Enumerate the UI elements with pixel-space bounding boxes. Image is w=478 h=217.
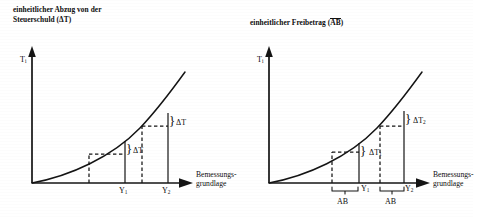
chart-panel-left: einheitlicher Abzug von der Steuerschuld… [0, 0, 236, 217]
delta-label-upper-left: ΔT [176, 118, 186, 127]
x-tick-label-y1-left: Y1 [119, 186, 127, 195]
brace-lower-left: } [126, 144, 132, 153]
delta-label-lower-right: ΔT1 [369, 148, 382, 157]
brace-upper-left: } [169, 116, 175, 125]
y-axis-label-right: Ti [257, 55, 263, 64]
y-axis-label-left: Ti [20, 55, 26, 64]
brace-lower-right: } [360, 146, 366, 155]
delta-label-upper-right: ΔT2 [413, 116, 426, 125]
y-axis-left [28, 46, 36, 183]
x-axis-label-left: Bemessungs- grundlage [196, 170, 242, 188]
ab-label-2-right: AB [385, 197, 396, 206]
ab-bracket-2-right [380, 187, 404, 194]
chart-panel-right: einheitlicher Freibetrag (AB) [237, 0, 473, 217]
x-tick-label-y2-right: Y2 [405, 184, 413, 193]
ab-label-1-right: AB [337, 197, 348, 206]
x-tick-label-y2-left: Y2 [162, 186, 170, 195]
brace-upper-right: } [405, 114, 411, 123]
ab-bracket-1-right [332, 187, 358, 194]
delta-label-lower-left: ΔT [133, 146, 143, 155]
tax-curve-left [32, 72, 185, 183]
x-axis-label-right: Bemessungs- grundlage [433, 170, 478, 188]
tax-curve-right [269, 72, 422, 183]
y-axis-right [265, 46, 273, 183]
x-tick-label-y1-right: Y1 [361, 184, 369, 193]
